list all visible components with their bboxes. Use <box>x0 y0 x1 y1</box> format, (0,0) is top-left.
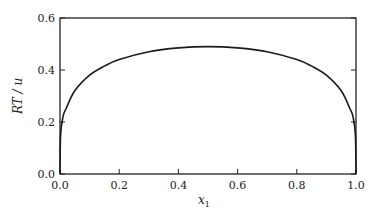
axis-ticks <box>60 18 356 174</box>
y-tick-label: 0.4 <box>38 64 56 77</box>
x-tick-label: 0.2 <box>110 179 128 192</box>
x-tick-label: 0.6 <box>229 179 247 192</box>
y-tick-label: 0.6 <box>38 12 56 25</box>
chart: 0.00.20.40.60.81.00.00.20.40.6 x1 RT / u <box>0 0 380 215</box>
x-tick-label: 0.8 <box>288 179 306 192</box>
plot-border <box>60 18 356 174</box>
plot-frame <box>60 18 356 174</box>
y-tick-label: 0.2 <box>38 116 56 129</box>
x-axis-label: x1 <box>198 193 210 209</box>
tick-labels: 0.00.20.40.60.81.00.00.20.40.6 <box>38 12 365 192</box>
data-curve <box>60 47 356 174</box>
y-tick-label: 0.0 <box>38 168 56 181</box>
x-tick-label: 0.4 <box>170 179 188 192</box>
x-tick-label: 1.0 <box>347 179 365 192</box>
y-axis-label: RT / u <box>11 78 25 115</box>
